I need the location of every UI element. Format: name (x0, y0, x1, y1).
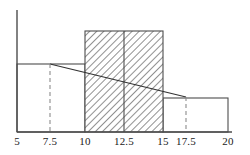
xtick-label-10: 10 (79, 135, 90, 147)
xtick-label-20: 20 (222, 135, 233, 147)
xtick-label-7-5: 7.5 (43, 135, 57, 147)
xtick-label-15: 15 (157, 135, 168, 147)
bar-bin-5-10 (17, 64, 85, 132)
xtick-label-12-5: 12.5 (114, 135, 134, 147)
histogram-chart (0, 0, 250, 155)
xtick-label-17-5: 17.5 (176, 135, 196, 147)
bar-bin-15-20 (163, 98, 228, 132)
histogram-figure: 5 7.5 10 12.5 15 17.5 20 (0, 0, 250, 155)
xtick-label-5: 5 (14, 135, 20, 147)
